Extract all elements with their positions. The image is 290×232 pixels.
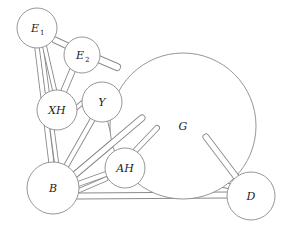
node-e2: E2 [64,37,100,73]
node-label: B [48,182,57,195]
node-label: E [30,22,39,35]
node-label: D [246,190,256,203]
node-subscript: 1 [40,29,44,37]
node-label: XH [47,104,66,117]
node-e1: E1 [17,8,57,48]
node-y: Y [82,82,122,122]
molecule-diagram: GE1E2XHYAHBD [0,0,290,232]
node-subscript: 2 [85,56,89,64]
node-d: D [227,172,275,220]
diagram-canvas: GE1E2XHYAHBD [0,0,290,232]
node-xh: XH [37,90,77,130]
node-label: E [75,49,84,62]
node-ah: AH [105,148,145,188]
node-label: G [179,120,188,133]
node-label: AH [115,162,134,175]
node-b: B [27,162,79,214]
